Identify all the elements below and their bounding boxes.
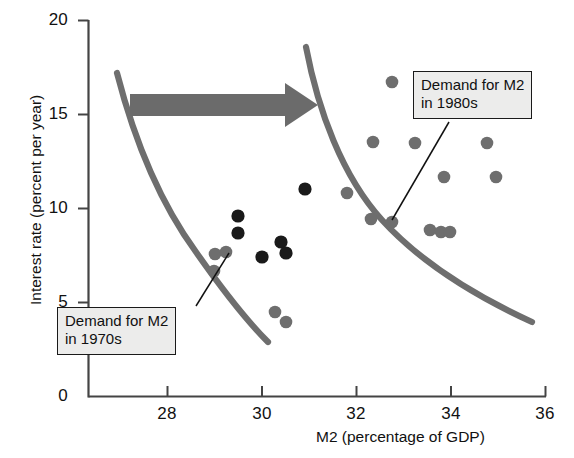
data-point — [269, 306, 282, 319]
data-point — [231, 226, 244, 239]
callout-1970s-line1: Demand for M2 — [65, 312, 168, 330]
data-point — [298, 182, 311, 195]
demand-for-m2-1970s-callout: Demand for M2 in 1970s — [57, 307, 176, 355]
x-tick-label-30: 30 — [237, 404, 287, 424]
data-point — [444, 226, 457, 239]
data-point — [367, 136, 380, 149]
x-tick-label-32: 32 — [331, 404, 381, 424]
data-point — [490, 171, 503, 184]
data-point — [424, 224, 437, 237]
chart-figure: 20 15 10 5 0 28 30 32 34 36 Interest rat… — [0, 0, 574, 458]
data-point — [365, 213, 378, 226]
x-axis-title: M2 (percentage of GDP) — [316, 428, 485, 446]
data-point — [386, 216, 399, 229]
x-tick-label-34: 34 — [426, 404, 476, 424]
callout-leader-1980s — [392, 122, 449, 220]
data-point — [341, 187, 354, 200]
y-tick-label-20: 20 — [28, 10, 68, 30]
chart-canvas — [0, 0, 574, 458]
x-tick-label-28: 28 — [142, 404, 192, 424]
callout-1970s-line2: in 1970s — [65, 330, 168, 348]
data-point — [280, 316, 293, 329]
rightward-shift-arrow — [130, 83, 318, 127]
data-point — [255, 250, 268, 263]
data-point — [279, 246, 292, 259]
data-point — [386, 76, 399, 89]
scatter-points-1970s — [231, 182, 311, 263]
data-point — [481, 137, 494, 150]
callout-1980s-line1: Demand for M2 — [421, 76, 524, 94]
data-point — [409, 137, 422, 150]
y-tick-label-0: 0 — [28, 386, 68, 406]
demand-for-m2-1980s-callout: Demand for M2 in 1980s — [413, 71, 532, 119]
y-axis-title: Interest rate (percent per year) — [27, 105, 45, 305]
data-point — [231, 209, 244, 222]
callout-1980s-line2: in 1980s — [421, 94, 524, 112]
data-point — [438, 171, 451, 184]
x-tick-label-36: 36 — [520, 404, 570, 424]
data-point — [209, 248, 222, 261]
